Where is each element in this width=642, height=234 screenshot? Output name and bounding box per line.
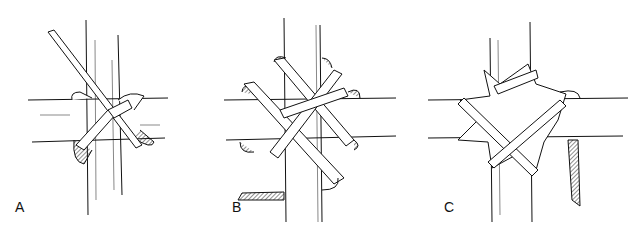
panel-c: C (428, 0, 642, 234)
lashing-drawing-a (0, 0, 214, 234)
panel-label-a: A (15, 199, 24, 215)
lashing-drawing-c (428, 0, 642, 234)
lashing-drawing-b (214, 0, 428, 234)
panel-label-b: B (232, 199, 241, 215)
panel-b: B (214, 0, 428, 234)
panel-a: A (0, 0, 214, 234)
panel-label-c: C (444, 199, 454, 215)
